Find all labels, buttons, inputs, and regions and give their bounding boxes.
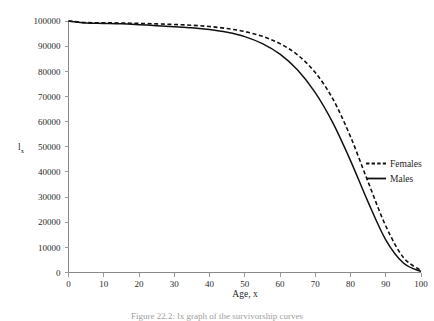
x-tick-label-10: 10 (99, 279, 109, 289)
y-tick-label-30000: 30000 (38, 192, 61, 202)
y-axis-tick-labels: 0100002000030000400005000060000700008000… (34, 16, 62, 278)
figure-caption-group: Figure 22.2: lx graph of the survivorshi… (131, 311, 303, 321)
x-tick-label-20: 20 (135, 279, 145, 289)
series-group (69, 21, 422, 271)
figure-caption: Figure 22.2: lx graph of the survivorshi… (131, 311, 303, 321)
y-tick-label-90000: 90000 (38, 41, 61, 51)
x-tick-label-40: 40 (205, 279, 215, 289)
y-tick-label-70000: 70000 (38, 92, 61, 102)
y-axis-ticks (65, 21, 69, 273)
x-tick-label-90: 90 (381, 279, 391, 289)
y-tick-label-20000: 20000 (38, 217, 61, 227)
x-axis-title: Age, x (232, 289, 258, 299)
y-tick-label-10000: 10000 (38, 243, 61, 253)
legend-label-males: Males (390, 174, 414, 184)
y-tick-label-40000: 40000 (38, 167, 61, 177)
y-tick-label-60000: 60000 (38, 117, 61, 127)
x-axis-tick-labels: 0102030405060708090100 (66, 279, 428, 289)
series-line-males (69, 21, 422, 271)
x-tick-label-60: 60 (276, 279, 286, 289)
x-tick-label-100: 100 (414, 279, 428, 289)
legend: Females Males (366, 159, 422, 184)
x-axis-ticks (69, 273, 422, 277)
survivorship-curve-chart: 0100002000030000400005000060000700008000… (0, 0, 434, 321)
y-tick-label-0: 0 (56, 268, 61, 278)
x-axis-group: 0102030405060708090100 Age, x (66, 273, 428, 300)
x-tick-label-70: 70 (311, 279, 321, 289)
y-axis-title: lx (18, 142, 25, 154)
x-tick-label-80: 80 (346, 279, 356, 289)
chart-page: 0100002000030000400005000060000700008000… (0, 0, 434, 321)
x-tick-label-0: 0 (66, 279, 71, 289)
legend-label-females: Females (390, 159, 422, 169)
x-tick-label-50: 50 (240, 279, 250, 289)
y-tick-label-50000: 50000 (38, 142, 61, 152)
y-axis-group: 0100002000030000400005000060000700008000… (18, 16, 69, 278)
y-tick-label-100000: 100000 (34, 16, 62, 26)
y-tick-label-80000: 80000 (38, 67, 61, 77)
x-tick-label-30: 30 (170, 279, 180, 289)
series-line-females (69, 21, 422, 270)
